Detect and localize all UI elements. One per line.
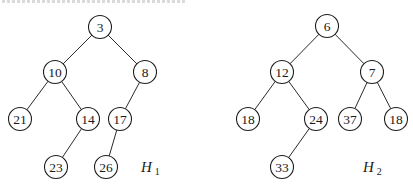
edges-layer [27,34,391,157]
node-value: 6 [324,19,331,34]
tree-edge [109,130,117,156]
tree-edge [62,81,82,109]
node-value: 17 [113,112,127,127]
heap-node: 6 [316,15,339,38]
node-value: 8 [142,65,149,80]
heap-node: 3 [89,16,112,39]
node-value: 21 [13,112,27,127]
node-value: 10 [48,65,62,80]
node-value: 23 [49,160,63,175]
heap-node: 8 [134,61,157,84]
heap-node: 12 [271,61,294,84]
heap-node: 24 [305,108,328,131]
node-value: 3 [97,20,104,35]
tree-edge [377,82,391,109]
heap-node: 37 [339,108,362,131]
tree-edge [108,35,137,64]
tree-edge [255,81,276,109]
node-value: 33 [275,160,289,175]
node-value: 18 [389,112,403,127]
tree-edge [27,81,48,110]
nodes-layer: 3108211417232661271824371833 [9,15,408,179]
heap-node: 33 [271,156,294,179]
tree-edge [289,81,310,109]
heap-node: 21 [9,108,32,131]
heap-node: 23 [45,156,68,179]
heap-labels-layer: H1H2 [140,159,382,177]
tree-edge [335,34,364,64]
tree-edge [355,82,367,108]
tree-edge [289,128,310,157]
heap-node: 10 [44,61,67,84]
heap-node: 7 [361,61,384,84]
heap-node: 17 [109,108,132,131]
heap-diagram: 3108211417232661271824371833 H1H2 [0,0,413,186]
node-value: 24 [309,112,323,127]
tree-edge [62,129,81,158]
node-value: 18 [241,112,255,127]
tree-edge [63,35,92,64]
heap-node: 26 [95,156,118,179]
node-value: 14 [81,112,95,127]
heap-name-label: H2 [362,159,382,177]
node-value: 37 [343,112,357,127]
heap-node: 14 [77,108,100,131]
tree-edge [290,34,319,64]
heap-name-label: H1 [140,159,160,177]
heap-node: 18 [237,108,260,131]
node-value: 12 [275,65,289,80]
heap-node: 18 [385,108,408,131]
node-value: 26 [99,160,113,175]
tree-edge [125,82,139,109]
node-value: 7 [369,65,376,80]
